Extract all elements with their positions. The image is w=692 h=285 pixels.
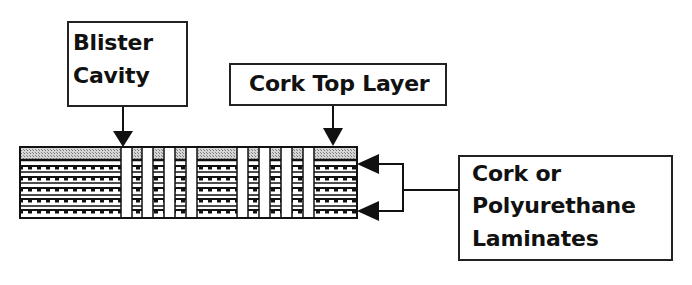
cavity [164,147,175,218]
cross-section-diagram [0,0,692,285]
cavity [142,147,153,218]
arrowhead-down-icon [323,128,343,146]
laminates-bracket-arrows [357,154,458,221]
cavity [237,147,248,218]
cavity [186,147,197,218]
cavity [121,147,132,218]
blister-cavity-arrow [113,107,133,147]
slab [20,147,357,218]
arrowhead-down-icon [113,131,133,147]
cavity [259,147,270,218]
arrowhead-left-icon [357,154,379,174]
cork-top-layer-arrow [323,106,343,146]
cavity [303,147,314,218]
arrowhead-left-icon [357,201,379,221]
cavity [281,147,292,218]
